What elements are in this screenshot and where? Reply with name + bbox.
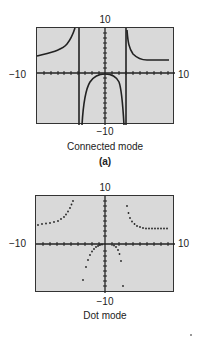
panel-b-xmin-label: −10 — [9, 238, 26, 249]
panel-a-ymin-label: −10 — [97, 126, 114, 137]
panel-a-label: (a) — [99, 156, 111, 167]
panel-b-ymin-label: −10 — [97, 296, 114, 307]
panel-b-xmax-label: 10 — [178, 238, 189, 249]
panel-b-caption: Dot mode — [83, 310, 126, 321]
panel-a-caption: Connected mode — [67, 141, 143, 152]
calculator-screen-dot — [35, 195, 174, 292]
connected-mode-graph — [37, 28, 175, 125]
panel-a-xmax-label: 10 — [178, 69, 189, 80]
panel-a-ymax-label: 10 — [99, 14, 110, 25]
calculator-screen-connected — [36, 27, 174, 124]
panel-b-ymax-label: 10 — [99, 182, 110, 193]
dot-mode-graph — [36, 196, 175, 293]
stray-mark — [190, 334, 192, 336]
panel-a-xmin-label: −10 — [9, 69, 26, 80]
